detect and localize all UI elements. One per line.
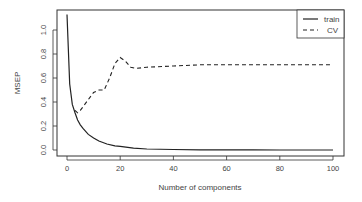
legend: train CV <box>297 10 344 38</box>
x-tick-label: 20 <box>116 164 124 173</box>
x-tick-label: 40 <box>169 164 177 173</box>
msep-chart: 0.00.20.40.60.81.0 020406080100 Number o… <box>0 0 362 202</box>
x-axis: 020406080100 <box>65 156 339 173</box>
x-tick-label: 0 <box>65 164 69 173</box>
train-line <box>67 14 333 150</box>
y-tick-label: 0.4 <box>39 97 48 107</box>
x-tick-label: 80 <box>276 164 284 173</box>
x-axis-label: Number of components <box>158 183 241 192</box>
y-tick-label: 0.0 <box>39 145 48 155</box>
y-tick-label: 0.2 <box>39 121 48 131</box>
legend-cv-label: CV <box>327 26 339 35</box>
x-tick-label: 100 <box>327 164 340 173</box>
y-axis: 0.00.20.40.60.81.0 <box>39 25 57 155</box>
cv-line <box>75 58 333 113</box>
y-tick-label: 0.6 <box>39 73 48 83</box>
y-tick-label: 1.0 <box>39 25 48 35</box>
x-tick-label: 60 <box>222 164 230 173</box>
legend-train-label: train <box>324 15 340 24</box>
y-axis-label: MSEP <box>13 72 22 95</box>
y-tick-label: 0.8 <box>39 49 48 59</box>
